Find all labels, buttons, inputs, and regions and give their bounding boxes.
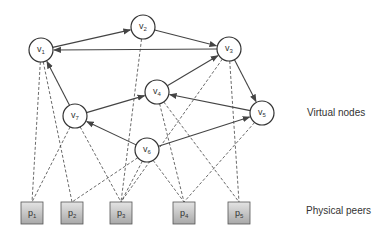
peer-p2: p2 [61, 202, 83, 224]
graph-canvas: p1p2p3p4p5 v1v2v3v4v5v6v7 [0, 0, 389, 236]
mapping-edge-v4-p5 [164, 102, 239, 202]
edge-v6-v7 [87, 122, 136, 145]
peer-p4: p4 [173, 202, 195, 224]
mapping-edge-v3-p5 [230, 61, 239, 202]
mapping-edge-v1-p1 [32, 62, 40, 202]
virtual-node-v2: v2 [131, 15, 155, 39]
virtual-node-v5: v5 [250, 101, 274, 125]
peer-p5: p5 [228, 202, 250, 224]
mapping-edge-v7-p3 [80, 127, 121, 202]
edge-v1-v2 [53, 30, 131, 48]
virtual-node-v7: v7 [63, 104, 87, 128]
peer-p3: p3 [110, 202, 132, 224]
physical-peers: p1p2p3p4p5 [21, 202, 250, 224]
virtual-node-v4: v4 [145, 80, 169, 104]
mapping-edge-v7-p1 [32, 127, 70, 202]
overlay-network-diagram: p1p2p3p4p5 v1v2v3v4v5v6v7 Virtual nodes … [0, 0, 389, 236]
mapping-edge-v6-p2 [72, 158, 138, 202]
edge-v4-v3 [167, 56, 218, 86]
virtual-node-v1: v1 [29, 38, 53, 62]
mapping-edge-v6-p4 [153, 160, 184, 202]
edge-v3-v5 [234, 60, 256, 102]
edge-v7-v1 [47, 62, 70, 106]
edge-v5-v4 [170, 95, 250, 111]
physical-peers-label: Physical peers [306, 205, 371, 216]
virtual-nodes-label: Virtual nodes [307, 107, 365, 118]
virtual-nodes: v1v2v3v4v5v6v7 [29, 15, 274, 162]
virtual-node-v6: v6 [135, 138, 159, 162]
virtual-node-v3: v3 [217, 37, 241, 61]
edge-v7-v4 [87, 96, 145, 113]
edge-v3-v1 [54, 49, 217, 50]
edge-v6-v5 [158, 117, 249, 146]
edge-v2-v3 [155, 30, 217, 46]
peer-p1: p1 [21, 202, 43, 224]
